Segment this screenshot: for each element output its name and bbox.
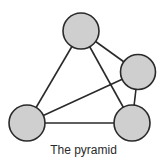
- node-bottom-right: [114, 105, 150, 141]
- pyramid-diagram: [0, 0, 167, 167]
- node-top: [63, 13, 99, 49]
- node-right: [121, 55, 156, 90]
- node-bottom-left: [9, 105, 45, 141]
- diagram-caption: The pyramid: [0, 143, 167, 157]
- nodes-group: [9, 13, 156, 141]
